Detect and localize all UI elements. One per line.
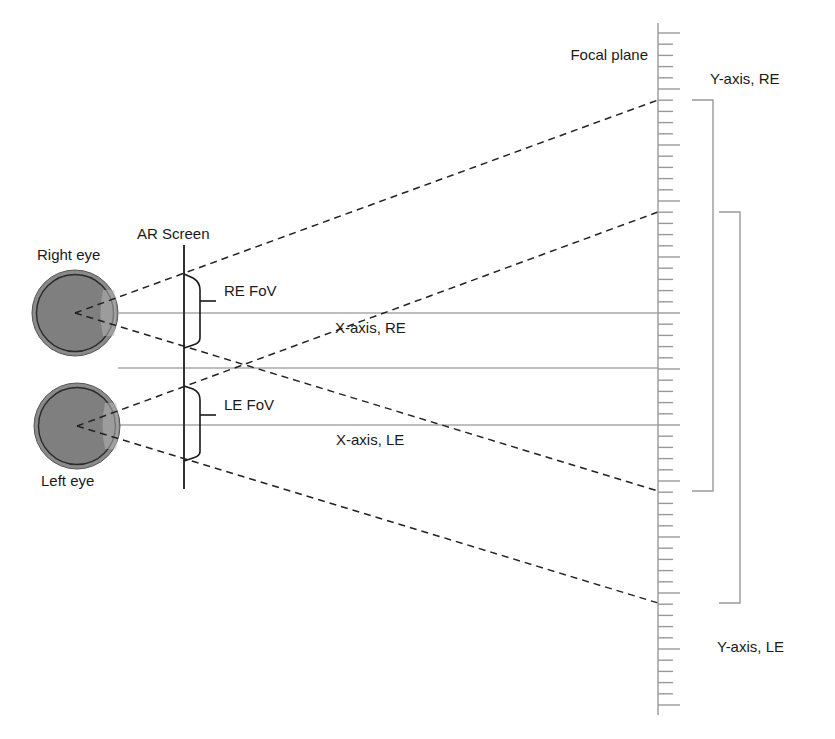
y-axis-le-label: Y-axis, LE	[717, 638, 784, 655]
left-eye-label: Left eye	[41, 472, 94, 489]
re-fov-label: RE FoV	[224, 282, 277, 299]
le-fov-brace	[184, 386, 200, 461]
focal-plane-label: Focal plane	[570, 46, 648, 63]
y-axis-re-bracket	[692, 100, 713, 491]
right-eye-lens	[101, 290, 117, 336]
left-eye-lens	[103, 403, 119, 449]
y-axis-le-bracket	[719, 212, 740, 603]
x-axis-re-label: X-axis, RE	[335, 319, 406, 336]
re-upper-ray	[75, 100, 658, 313]
right-eye-label: Right eye	[37, 246, 100, 263]
x-axis-le-label: X-axis, LE	[336, 431, 404, 448]
re-lower-ray	[75, 313, 658, 491]
diagram-canvas: Right eye Left eye AR Screen RE FoV LE F…	[0, 0, 835, 739]
re-fov-brace	[184, 274, 200, 348]
ar-binocular-fov-diagram: Right eye Left eye AR Screen RE FoV LE F…	[0, 0, 835, 739]
le-lower-ray	[77, 426, 658, 603]
ar-screen-label: AR Screen	[137, 225, 210, 242]
y-axis-re-label: Y-axis, RE	[710, 70, 779, 87]
focal-plane-ruler	[658, 23, 680, 715]
le-fov-label: LE FoV	[224, 396, 274, 413]
fov-rays	[75, 100, 658, 603]
